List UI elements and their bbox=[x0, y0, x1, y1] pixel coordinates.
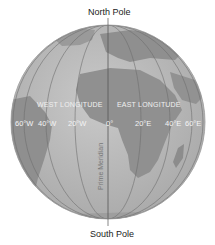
longitude-label-40e: 40°E bbox=[165, 119, 181, 128]
longitude-label-20e: 20°E bbox=[135, 119, 151, 128]
longitude-label-20w: 20°W bbox=[68, 119, 86, 128]
longitude-label-0: 0° bbox=[106, 119, 113, 128]
south-pole-label: South Pole bbox=[90, 229, 134, 239]
longitude-label-60e: 60°E bbox=[185, 119, 201, 128]
north-pole-label: North Pole bbox=[88, 7, 131, 17]
longitude-label-60w: 60°W bbox=[15, 119, 33, 128]
longitude-label-40w: 40°W bbox=[38, 119, 56, 128]
west-longitude-label: WEST LONGITUDE bbox=[37, 101, 103, 108]
east-longitude-label: EAST LONGITUDE bbox=[117, 101, 181, 108]
prime-meridian-label: Prime Meridian bbox=[97, 143, 104, 190]
